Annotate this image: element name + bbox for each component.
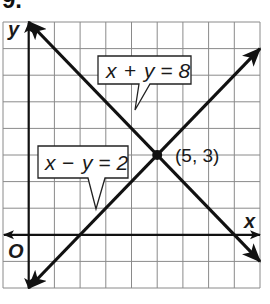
x-axis-label: x bbox=[243, 210, 256, 232]
callout1-x: x bbox=[105, 59, 118, 82]
callout2-op: − bbox=[62, 151, 74, 174]
intersection-label: (5, 3) bbox=[175, 145, 219, 166]
coordinate-graph: x + y = 8 x − y = 2 (5, 3) x y O bbox=[0, 0, 270, 304]
callout1-op: + bbox=[124, 59, 136, 82]
callout1-rhs: y = 8 bbox=[142, 59, 190, 82]
callout2-x: x bbox=[44, 151, 57, 174]
callout2-rhs: y = 2 bbox=[80, 151, 128, 174]
origin-label: O bbox=[8, 240, 24, 262]
intersection-point bbox=[152, 150, 162, 160]
y-axis-label: y bbox=[7, 18, 20, 40]
